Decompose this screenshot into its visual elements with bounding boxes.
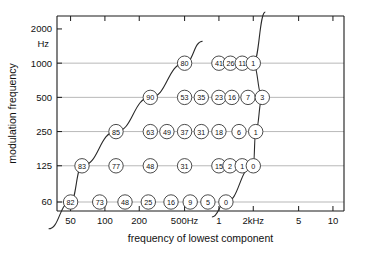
data-point-label: 15: [215, 162, 223, 171]
data-point-label: 3: [260, 93, 264, 102]
data-point-label: 9: [188, 198, 192, 207]
data-point-label: 31: [197, 128, 205, 137]
y-tick-label: 1000: [31, 58, 52, 69]
data-point-label: 1: [254, 128, 258, 137]
data-point-label: 1: [251, 59, 255, 68]
data-point-label: 7: [246, 93, 250, 102]
data-point-label: 77: [112, 162, 120, 171]
y-tick-label: 500: [36, 92, 52, 103]
data-point-label: 16: [167, 198, 175, 207]
chart-figure: 2000100050025012560Hz50100200500Hz12kHz5…: [0, 0, 365, 264]
data-point-label: 6: [237, 128, 241, 137]
scatter-plot-canvas: 2000100050025012560Hz50100200500Hz12kHz5…: [0, 0, 365, 264]
data-point-label: 85: [112, 128, 120, 137]
y-tick-label: 250: [36, 126, 52, 137]
data-point-label: 82: [67, 198, 75, 207]
x-tick-label: 5: [296, 215, 301, 226]
data-point-label: 0: [224, 198, 228, 207]
data-point-label: 53: [181, 93, 189, 102]
data-point-label: 5: [206, 198, 210, 207]
y-tick-label: 2000: [31, 23, 52, 34]
data-point-label: 80: [181, 59, 189, 68]
data-point-label: 73: [96, 198, 104, 207]
data-point-label: 63: [146, 128, 154, 137]
data-point-label: 49: [163, 128, 171, 137]
x-tick-label: 2kHz: [242, 215, 264, 226]
data-point-label: 2: [228, 162, 232, 171]
y-axis-unit-label: Hz: [37, 38, 49, 49]
data-point-label: 18: [215, 128, 223, 137]
data-point-label: 0: [251, 162, 255, 171]
x-tick-label: 50: [65, 215, 76, 226]
data-point-label: 16: [228, 93, 236, 102]
x-axis-title: frequency of lowest component: [128, 232, 273, 244]
x-tick-label: 10: [328, 215, 339, 226]
data-point-label: 90: [146, 93, 154, 102]
data-point-label: 48: [146, 162, 154, 171]
right-boundary-curve: [212, 12, 265, 217]
data-point-label: 25: [144, 198, 152, 207]
data-point-label: 83: [78, 162, 86, 171]
x-tick-label: 1: [216, 215, 221, 226]
x-tick-label: 100: [97, 215, 113, 226]
data-series-row: 804126111: [177, 56, 260, 70]
data-point-label: 11: [238, 59, 245, 68]
y-tick-label: 60: [41, 196, 52, 207]
y-tick-label: 125: [36, 160, 52, 171]
x-tick-label: 200: [131, 215, 147, 226]
data-point-label: 48: [121, 198, 129, 207]
y-axis-title: modulation frequency: [6, 63, 18, 164]
data-point-label: 35: [197, 93, 205, 102]
data-point-label: 31: [181, 162, 189, 171]
x-tick-label: 500Hz: [171, 215, 199, 226]
data-point-label: 23: [215, 93, 223, 102]
data-point-label: 1: [240, 162, 244, 171]
data-point-label: 41: [215, 59, 223, 68]
data-point-label: 26: [226, 59, 234, 68]
data-point-label: 37: [181, 128, 189, 137]
